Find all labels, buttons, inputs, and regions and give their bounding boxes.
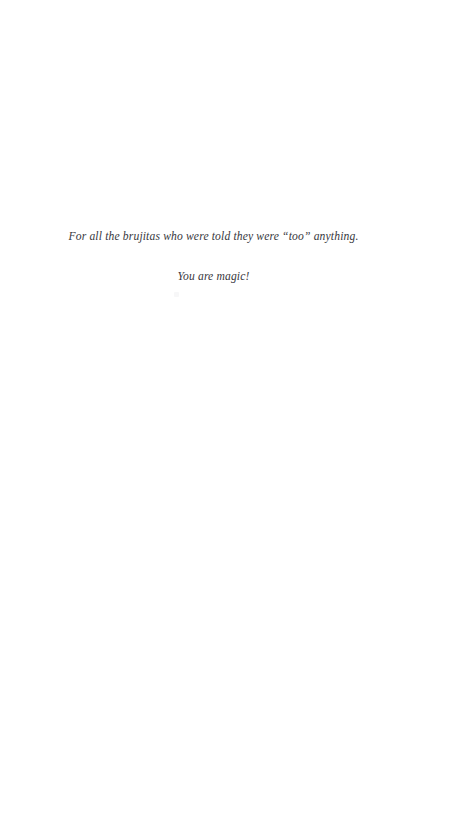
scan-artifact (174, 292, 179, 297)
book-page: For all the brujitas who were told they … (0, 0, 456, 813)
dedication-line-secondary: You are magic! (0, 268, 427, 285)
dedication-line-primary: For all the brujitas who were told they … (0, 228, 427, 245)
dedication-block: For all the brujitas who were told they … (0, 228, 427, 285)
